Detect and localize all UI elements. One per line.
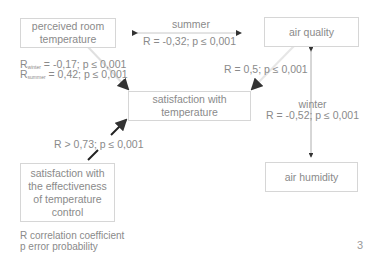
stat-control-satisfaction: R > 0,73; p ≤ 0,001: [54, 138, 144, 150]
stat-winter: R = -0,52; p ≤ 0,001: [266, 109, 359, 121]
node-perceived-room-temperature: perceived room temperature: [20, 18, 116, 48]
arrow-control-satisfaction: [88, 150, 98, 160]
r-subscript: summer: [28, 74, 46, 80]
stat-perceived-summer: Rsummer = 0,42; p ≤ 0,001: [20, 68, 128, 83]
page-number: 3: [357, 239, 363, 251]
node-air-quality: air quality: [264, 17, 359, 47]
stat-air-quality-satisfaction: R = 0,5; p ≤ 0,001: [224, 63, 308, 75]
node-satisfaction-with-temperature: satisfaction with temperature: [128, 91, 251, 121]
r-value: = 0,42; p ≤ 0,001: [46, 68, 128, 80]
node-satisfaction-control: satisfaction with the effectiveness of t…: [20, 163, 115, 222]
label-summer: summer: [166, 18, 216, 30]
stat-summer: R = -0,32; p ≤ 0,001: [143, 35, 236, 47]
legend-p: p error probability: [20, 241, 98, 253]
r-symbol: R: [20, 68, 28, 80]
arrow-control-satisfaction-head: [111, 120, 126, 135]
node-air-humidity: air humidity: [265, 162, 358, 192]
